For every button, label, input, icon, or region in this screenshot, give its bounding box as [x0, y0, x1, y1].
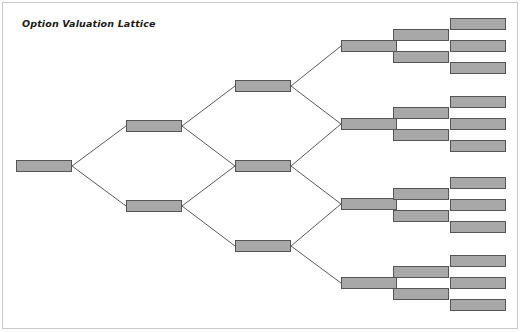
- lattice-node-n6-12: [450, 299, 506, 311]
- lattice-node-n3-3: [235, 240, 291, 252]
- lattice-node-n4-4: [341, 277, 397, 289]
- lattice-node-n5-8: [393, 288, 449, 300]
- lattice-edge: [291, 86, 341, 124]
- lattice-node-n5-4: [393, 129, 449, 141]
- lattice-node-n6-9: [450, 221, 506, 233]
- lattice-node-n3-2: [235, 160, 291, 172]
- lattice-node-n6-11: [450, 277, 506, 289]
- lattice-node-n5-2: [393, 51, 449, 63]
- lattice-edge: [291, 166, 341, 204]
- lattice-node-n6-5: [450, 118, 506, 130]
- lattice-edge: [72, 166, 126, 206]
- lattice-node-n5-5: [393, 188, 449, 200]
- lattice-node-n5-6: [393, 210, 449, 222]
- lattice-edge: [182, 166, 235, 206]
- lattice-node-n6-1: [450, 18, 506, 30]
- lattice-edge: [291, 124, 341, 166]
- lattice-node-n6-7: [450, 177, 506, 189]
- lattice-edge: [291, 46, 341, 86]
- lattice-node-n4-1: [341, 40, 397, 52]
- lattice-node-n5-7: [393, 266, 449, 278]
- lattice-node-n6-10: [450, 255, 506, 267]
- diagram-title: Option Valuation Lattice: [22, 18, 156, 29]
- lattice-edge: [72, 126, 126, 166]
- lattice-edge: [291, 246, 341, 283]
- lattice-node-n5-1: [393, 29, 449, 41]
- lattice-node-n6-8: [450, 199, 506, 211]
- lattice-node-n6-4: [450, 96, 506, 108]
- lattice-diagram-canvas: Option Valuation Lattice: [0, 0, 521, 332]
- lattice-edge: [182, 206, 235, 246]
- lattice-node-n3-1: [235, 80, 291, 92]
- lattice-node-n5-3: [393, 107, 449, 119]
- lattice-edge: [291, 204, 341, 246]
- lattice-node-n6-2: [450, 40, 506, 52]
- lattice-node-n6-3: [450, 62, 506, 74]
- lattice-node-n2-1: [126, 120, 182, 132]
- lattice-edge: [182, 126, 235, 166]
- lattice-node-n4-2: [341, 118, 397, 130]
- lattice-node-n4-3: [341, 198, 397, 210]
- lattice-edge: [182, 86, 235, 126]
- lattice-node-n2-2: [126, 200, 182, 212]
- lattice-node-n6-6: [450, 140, 506, 152]
- lattice-node-n1-1: [16, 160, 72, 172]
